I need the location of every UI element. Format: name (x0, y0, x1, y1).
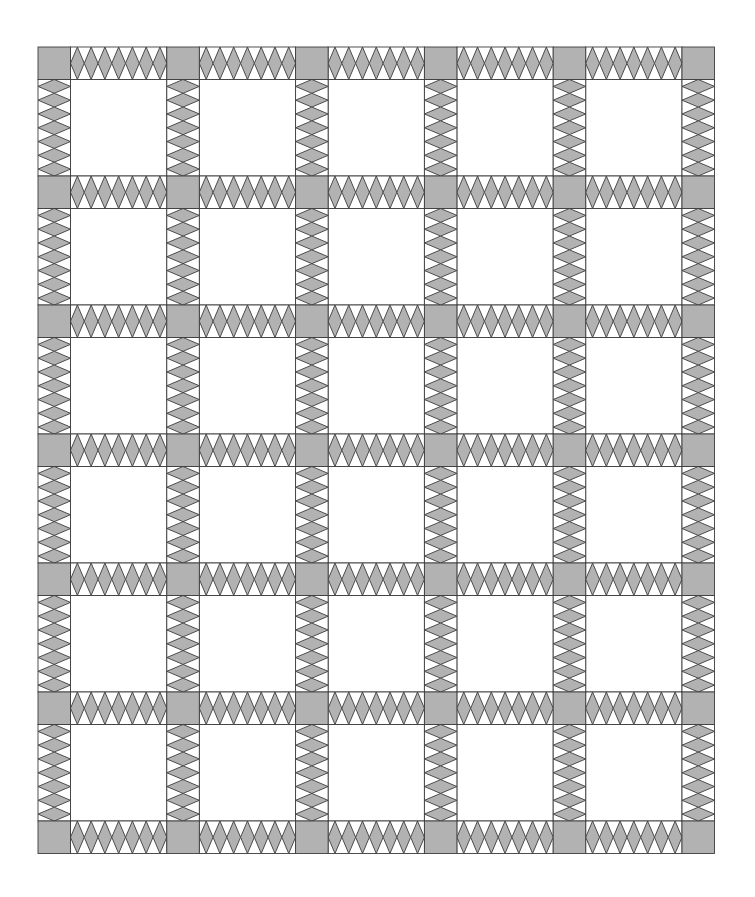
quilt-block (71, 596, 167, 693)
quilt-block (586, 467, 682, 564)
quilt-block (71, 338, 167, 435)
quilt-block (457, 596, 553, 693)
corner-post (167, 821, 200, 854)
corner-post (424, 434, 457, 467)
corner-post (553, 305, 586, 338)
corner-post (424, 305, 457, 338)
corner-post (682, 692, 715, 725)
corner-post (553, 821, 586, 854)
corner-post (424, 821, 457, 854)
quilt-block (328, 209, 424, 306)
corner-post (38, 821, 71, 854)
corner-post (296, 176, 329, 209)
corner-post (167, 176, 200, 209)
corner-post (167, 47, 200, 80)
quilt-block (71, 80, 167, 177)
quilt-block (457, 725, 553, 822)
quilt-block (199, 80, 295, 177)
quilt-block (457, 467, 553, 564)
corner-post (553, 176, 586, 209)
quilt-block (328, 80, 424, 177)
corner-post (296, 821, 329, 854)
corner-post (167, 305, 200, 338)
quilt-block (586, 338, 682, 435)
corner-post (424, 176, 457, 209)
corner-post (682, 563, 715, 596)
quilt-block (199, 338, 295, 435)
corner-post (38, 176, 71, 209)
quilt-block (586, 209, 682, 306)
quilt-block (328, 338, 424, 435)
corner-post (38, 563, 71, 596)
quilt-block (457, 338, 553, 435)
corner-post (553, 47, 586, 80)
quilt-block (71, 209, 167, 306)
corner-post (38, 434, 71, 467)
corner-post (296, 305, 329, 338)
quilt-block (199, 596, 295, 693)
quilt-pattern (0, 0, 755, 897)
corner-post (682, 434, 715, 467)
corner-post (296, 563, 329, 596)
corner-post (167, 692, 200, 725)
quilt-block (71, 467, 167, 564)
quilt-block (328, 467, 424, 564)
quilt-block (199, 467, 295, 564)
quilt-block (328, 725, 424, 822)
corner-post (424, 563, 457, 596)
corner-post (682, 821, 715, 854)
corner-post (682, 47, 715, 80)
corner-post (553, 692, 586, 725)
corner-post (167, 434, 200, 467)
corner-post (296, 47, 329, 80)
quilt-block (457, 80, 553, 177)
corner-post (38, 305, 71, 338)
corner-post (553, 563, 586, 596)
corner-post (424, 47, 457, 80)
corner-post (682, 305, 715, 338)
corner-post (38, 692, 71, 725)
corner-post (682, 176, 715, 209)
quilt-block (586, 596, 682, 693)
quilt-block (199, 725, 295, 822)
quilt-block (457, 209, 553, 306)
corner-post (167, 563, 200, 596)
corner-post (553, 434, 586, 467)
quilt-block (586, 80, 682, 177)
quilt-block (586, 725, 682, 822)
corner-post (424, 692, 457, 725)
quilt-block (199, 209, 295, 306)
quilt-block (328, 596, 424, 693)
corner-post (38, 47, 71, 80)
corner-post (296, 692, 329, 725)
corner-post (296, 434, 329, 467)
quilt-block (71, 725, 167, 822)
